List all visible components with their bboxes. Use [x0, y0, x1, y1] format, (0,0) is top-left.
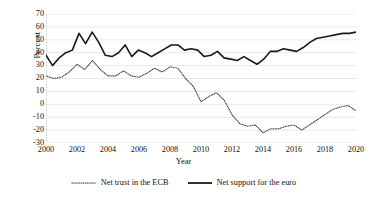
y-tick-label: 20 — [24, 74, 44, 82]
y-tick-label: 30 — [24, 61, 44, 69]
legend-solid-swatch-icon — [187, 179, 213, 187]
y-tick-label: 50 — [24, 36, 44, 44]
y-axis-ticks: 706050403020100-10-20-30 — [22, 0, 44, 200]
y-tick-label: -10 — [24, 113, 44, 121]
x-tick-label: 2014 — [255, 145, 271, 154]
y-tick-label: 10 — [24, 87, 44, 95]
legend-label: Net support for the euro — [217, 178, 297, 187]
x-tick-label: 2018 — [317, 145, 333, 154]
y-tick-label: 40 — [24, 49, 44, 57]
x-tick-label: 2020 — [348, 145, 364, 154]
plot-area — [46, 14, 356, 143]
x-tick-label: 2000 — [38, 145, 54, 154]
x-tick-label: 2002 — [69, 145, 85, 154]
x-tick-label: 2016 — [286, 145, 302, 154]
y-tick-label: 70 — [24, 10, 44, 18]
y-tick-label: -20 — [24, 126, 44, 134]
legend-dotted-swatch-icon — [71, 179, 97, 187]
x-tick-label: 2012 — [224, 145, 240, 154]
x-axis-title: Year — [0, 156, 367, 166]
y-tick-label: 0 — [24, 100, 44, 108]
legend-item: Net support for the euro — [187, 178, 297, 187]
legend-label: Net trust in the ECB — [101, 178, 169, 187]
x-tick-label: 2004 — [100, 145, 116, 154]
x-tick-label: 2006 — [131, 145, 147, 154]
y-tick-label: 60 — [24, 23, 44, 31]
x-tick-label: 2010 — [193, 145, 209, 154]
chart-figure: Percent 706050403020100-10-20-30 2000200… — [0, 0, 367, 200]
x-tick-label: 2008 — [162, 145, 178, 154]
data-series-layer — [46, 14, 356, 143]
legend-item: Net trust in the ECB — [71, 178, 169, 187]
chart-legend: Net trust in the ECBNet support for the … — [0, 178, 367, 187]
series-line — [46, 60, 356, 132]
